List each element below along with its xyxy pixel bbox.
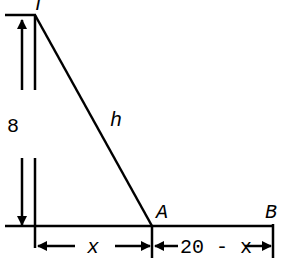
label-top: T: [32, 0, 45, 16]
label-b: B: [265, 201, 277, 224]
label-a: A: [154, 201, 168, 224]
diagram: T 8 h A B x 20 - x: [0, 0, 290, 271]
label-rest: 20 - x: [180, 236, 252, 259]
hypotenuse-line: [35, 15, 152, 226]
label-hyp: h: [110, 109, 122, 132]
label-x: x: [86, 236, 99, 259]
label-height: 8: [7, 115, 19, 138]
